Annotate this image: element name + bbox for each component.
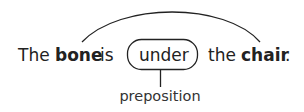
part-of-speech-label: preposition bbox=[0, 88, 304, 104]
word-under-boxed: under bbox=[139, 43, 189, 67]
word-the-2: the bbox=[208, 43, 236, 67]
sentence: The bone is under the chair . bbox=[0, 43, 304, 67]
period: . bbox=[285, 43, 290, 67]
word-chair: chair bbox=[241, 43, 289, 67]
word-is: is bbox=[100, 43, 114, 67]
word-bone: bone bbox=[55, 43, 102, 67]
relation-arc bbox=[82, 12, 260, 42]
word-the: The bbox=[18, 43, 50, 67]
